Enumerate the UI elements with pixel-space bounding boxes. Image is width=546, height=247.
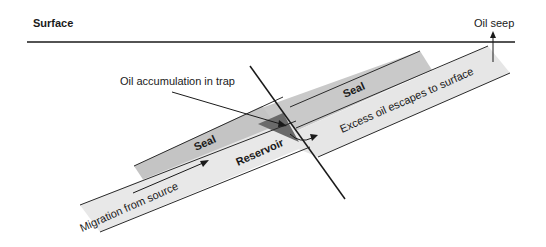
oil-seep-label: Oil seep (474, 17, 514, 29)
surface-label: Surface (33, 17, 73, 29)
oil-accumulation-label: Oil accumulation in trap (120, 75, 235, 87)
oil-seep-arrowhead-icon (490, 31, 496, 38)
oil-trap-diagram: Surface Oil seep Oil accumulation in tra… (0, 0, 546, 247)
